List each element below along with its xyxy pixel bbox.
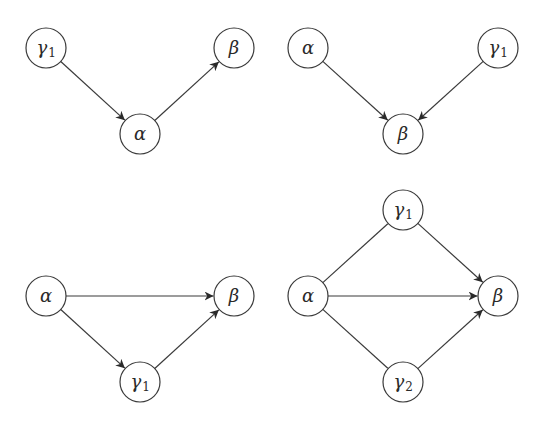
node-label: β	[397, 123, 408, 144]
diagram-canvas: γ1αβαγ1βαβγ1αβγ1γ2	[0, 0, 543, 431]
node-label: γ	[37, 37, 48, 58]
node-b: β	[214, 28, 254, 68]
node-subscript: 2	[405, 380, 413, 394]
node-label: γ	[489, 37, 500, 58]
node-label: γ	[394, 199, 405, 220]
node-g1: γ1	[383, 190, 423, 230]
node-label: β	[228, 285, 239, 306]
node-b: β	[478, 276, 518, 316]
arrow-edge-g1-to-b	[155, 310, 219, 369]
node-a: α	[288, 28, 328, 68]
arrow-edge-g1-to-b	[418, 61, 483, 120]
arrow-edge-g1-to-b	[418, 223, 483, 282]
arrow-edge-a-to-g1	[61, 310, 125, 369]
node-b: β	[214, 276, 254, 316]
node-label: γ	[394, 371, 405, 392]
node-subscript: 1	[405, 208, 413, 222]
node-subscript: 1	[48, 46, 56, 60]
node-label: α	[302, 37, 314, 58]
node-g1: γ1	[26, 28, 66, 68]
node-label: β	[492, 285, 503, 306]
diagram-top-right-edges	[323, 61, 483, 120]
node-label: α	[40, 285, 52, 306]
node-g2: γ2	[383, 362, 423, 402]
node-subscript: 1	[142, 380, 150, 394]
undirected-edge-a-to-g1	[323, 224, 388, 283]
arrow-edge-a-to-b	[155, 62, 219, 121]
node-label: α	[302, 285, 314, 306]
node-subscript: 1	[500, 46, 508, 60]
diagram-bottom-left-nodes: αβγ1	[26, 276, 254, 402]
diagram-top-left-edges	[61, 62, 219, 121]
node-label: α	[134, 123, 146, 144]
node-b: β	[383, 114, 423, 154]
diagram-top-left-nodes: γ1αβ	[26, 28, 254, 154]
node-a: α	[26, 276, 66, 316]
node-a: α	[288, 276, 328, 316]
diagram-bottom-left-edges	[61, 296, 219, 368]
node-a: α	[120, 114, 160, 154]
arrow-edge-g1-to-a	[61, 62, 125, 121]
diagram-top-right-nodes: αγ1β	[288, 28, 518, 154]
node-label: γ	[131, 371, 142, 392]
node-label: β	[228, 37, 239, 58]
arrow-edge-g2-to-b	[418, 310, 483, 369]
node-g1: γ1	[120, 362, 160, 402]
arrow-edge-a-to-b	[323, 61, 388, 120]
node-g1: γ1	[478, 28, 518, 68]
undirected-edge-a-to-g2	[323, 309, 388, 368]
diagram-bottom-right-edges	[323, 223, 483, 368]
